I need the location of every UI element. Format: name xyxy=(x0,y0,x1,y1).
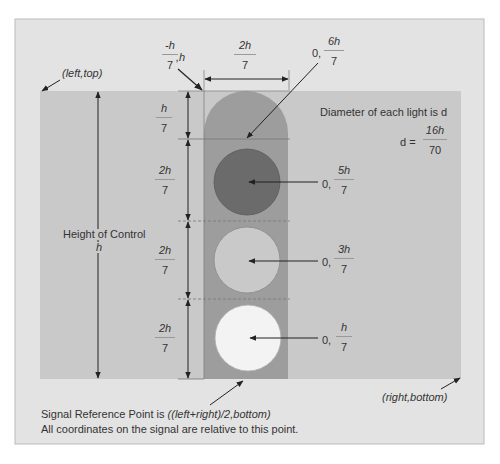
segment-3-num: 2h xyxy=(159,244,171,256)
point-bottom-den: 7 xyxy=(336,337,352,353)
point-bottom-prefix: 0, xyxy=(322,335,331,346)
point-bottom-fraction: h 7 xyxy=(336,322,352,353)
width-dim-den: 7 xyxy=(234,55,256,71)
diameter-eq-prefix: d = xyxy=(400,137,416,148)
diameter-num: 16h xyxy=(426,124,444,136)
segment-4-num: 2h xyxy=(159,322,171,334)
segment-label-1: h 7 xyxy=(156,103,172,134)
segment-3-den: 7 xyxy=(155,260,175,276)
diameter-note: Diameter of each light is d xyxy=(320,107,447,118)
point-top-prefix: 0, xyxy=(322,179,331,190)
right-bottom-label: (right,bottom) xyxy=(382,392,447,403)
reference-note-line1: Signal Reference Point is ((left+right)/… xyxy=(41,409,271,420)
point-middle-num: 3h xyxy=(338,243,350,255)
segment-label-3: 2h 7 xyxy=(155,245,175,276)
diameter-fraction: 16h 70 xyxy=(423,125,447,156)
point-middle-fraction: 3h 7 xyxy=(334,244,354,275)
segment-label-2: 2h 7 xyxy=(155,165,175,196)
height-symbol: h xyxy=(96,242,102,253)
left-top-label: (left,top) xyxy=(62,68,102,79)
light-middle xyxy=(214,227,280,293)
point-arc-den: 7 xyxy=(324,51,344,67)
segment-2-den: 7 xyxy=(155,180,175,196)
width-dim-fraction: 2h 7 xyxy=(234,40,256,71)
width-dim-num: 2h xyxy=(239,39,251,51)
segment-2-num: 2h xyxy=(159,164,171,176)
height-label: Height of Control xyxy=(62,229,147,240)
point-arc-prefix: 0, xyxy=(312,48,321,59)
segment-1-den: 7 xyxy=(156,118,172,134)
segment-4-den: 7 xyxy=(155,338,175,354)
segment-1-num: h xyxy=(161,102,167,114)
reference-note-prefix: Signal Reference Point is xyxy=(41,408,168,420)
point-top-den: 7 xyxy=(334,180,354,196)
point-top-fraction: 5h 7 xyxy=(334,165,354,196)
point-top-num: 5h xyxy=(338,164,350,176)
reference-note-line2: All coordinates on the signal are relati… xyxy=(41,424,298,435)
point-bottom-num: h xyxy=(341,321,347,333)
reference-point-formula: ((left+right)/2,bottom) xyxy=(168,408,271,420)
segment-label-4: 2h 7 xyxy=(155,323,175,354)
point-arc-num: 6h xyxy=(328,35,340,47)
top-corner-suffix: ,h xyxy=(176,52,185,63)
top-corner-num: -h xyxy=(165,39,175,51)
point-arc-fraction: 6h 7 xyxy=(324,36,344,67)
point-middle-prefix: 0, xyxy=(322,257,331,268)
point-middle-den: 7 xyxy=(334,259,354,275)
diameter-den: 70 xyxy=(423,140,447,156)
